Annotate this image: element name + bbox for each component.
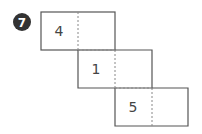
problem-number-badge: 7 xyxy=(13,13,31,31)
net-row-1: 4 xyxy=(41,12,115,50)
face-label-4: 4 xyxy=(55,23,64,39)
net-row-3: 5 xyxy=(115,88,188,126)
badge-number: 7 xyxy=(18,16,26,30)
face-label-5: 5 xyxy=(129,99,138,115)
face-label-1: 1 xyxy=(92,61,101,77)
net-row-2: 1 xyxy=(78,50,152,88)
cube-net-diagram: 7 4 1 5 xyxy=(0,0,202,134)
